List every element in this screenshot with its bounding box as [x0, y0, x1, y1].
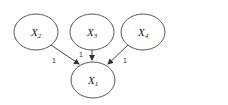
node-x2: X2 [14, 14, 58, 50]
node-x3: X3 [70, 14, 114, 50]
node-x4: X4 [121, 14, 165, 50]
graph-canvas: 1 1 1 X2 X3 X4 X1 [0, 0, 228, 105]
edge-label-x2-x1: 1 [52, 57, 56, 64]
node-x1: X1 [71, 62, 115, 98]
edge-label-x3-x1: 1 [79, 51, 83, 58]
edge-label-x4-x1: 1 [123, 57, 127, 64]
